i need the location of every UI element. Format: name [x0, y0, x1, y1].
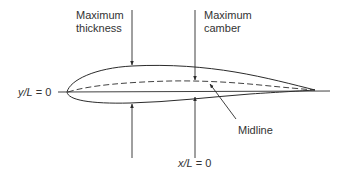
midline-leader-arrow	[210, 84, 236, 119]
airfoil-diagram	[0, 0, 348, 178]
label-midline: Midline	[238, 124, 273, 137]
label-y-axis-eq: = 0	[33, 86, 52, 98]
label-y-axis-zero: y/L = 0	[18, 86, 51, 99]
label-max-camber-line2: camber	[204, 22, 252, 35]
label-max-thickness-line1: Maximum	[76, 9, 124, 22]
label-x-axis-eq: = 0	[193, 157, 212, 169]
label-max-camber: Maximum camber	[204, 9, 252, 35]
label-max-thickness-line2: thickness	[76, 22, 124, 35]
label-x-axis-zero: x/L = 0	[178, 157, 211, 170]
label-y-axis-var: y/L	[18, 86, 33, 98]
label-x-axis-var: x/L	[178, 157, 193, 169]
label-max-thickness: Maximum thickness	[76, 9, 124, 35]
airfoil-upper-surface	[67, 65, 315, 92]
label-max-camber-line1: Maximum	[204, 9, 252, 22]
camber-midline	[68, 81, 315, 92]
